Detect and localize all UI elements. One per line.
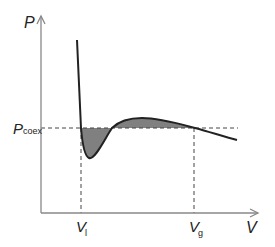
- v-gas-subscript: g: [198, 228, 203, 238]
- v-liquid-subscript: l: [85, 228, 87, 238]
- pv-diagram: P V P coex V l V g: [0, 0, 275, 247]
- volume-axis-label: V: [246, 219, 258, 236]
- pressure-axis-label: P: [24, 14, 35, 31]
- p-coex-subscript: coex: [23, 126, 43, 136]
- p-coex-label: P: [13, 120, 23, 137]
